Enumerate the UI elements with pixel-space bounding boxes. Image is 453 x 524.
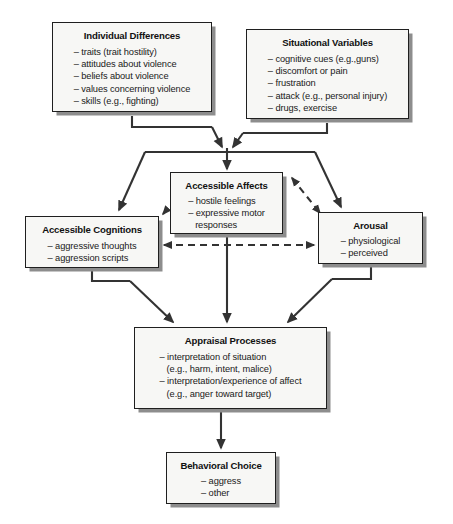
node-arousal-title: Arousal bbox=[327, 220, 414, 232]
list-item: – aggressive thoughts bbox=[48, 240, 137, 252]
node-individual-differences-title: Individual Differences bbox=[61, 30, 203, 42]
node-behavioral-choice: Behavioral Choice – aggress – other bbox=[166, 452, 276, 504]
connector-individual-differences-to-junction bbox=[132, 116, 222, 147]
list-item: – perceived bbox=[341, 247, 400, 259]
node-appraisal-processes: Appraisal Processes – interpretation of … bbox=[134, 327, 327, 409]
node-accessible-cognitions-list: – aggressive thoughts – aggression scrip… bbox=[48, 240, 137, 265]
list-item: – skills (e.g., fighting) bbox=[74, 95, 191, 107]
node-individual-differences-list: – traits (trait hostility) – attitudes a… bbox=[74, 46, 191, 108]
node-accessible-affects-list: – hostile feelings – expressive motor re… bbox=[188, 195, 265, 232]
list-item: – interpretation of situation (e.g., har… bbox=[160, 351, 302, 376]
node-behavioral-choice-title: Behavioral Choice bbox=[175, 460, 267, 472]
list-item: – other bbox=[201, 487, 241, 499]
connector-situational-variables-to-junction bbox=[233, 123, 327, 147]
list-item: – beliefs about violence bbox=[74, 70, 191, 82]
general-aggression-model-diagram: Individual Differences – traits (trait h… bbox=[0, 0, 453, 524]
list-item: – frustration bbox=[268, 77, 387, 89]
list-item: – cognitive cues (e.g.,guns) bbox=[268, 53, 387, 65]
connector-cognitions-to-appraisal bbox=[92, 271, 173, 322]
list-item: – aggress bbox=[201, 475, 241, 487]
node-situational-variables-title: Situational Variables bbox=[255, 37, 400, 49]
node-appraisal-processes-title: Appraisal Processes bbox=[143, 335, 318, 347]
node-accessible-affects: Accessible Affects – hostile feelings – … bbox=[170, 172, 283, 234]
connector-arousal-to-appraisal bbox=[288, 267, 371, 322]
list-item: – attitudes about violence bbox=[74, 58, 191, 70]
node-accessible-cognitions: Accessible Cognitions – aggressive thoug… bbox=[25, 216, 159, 268]
node-arousal-list: – physiological – perceived bbox=[341, 235, 400, 260]
node-situational-variables-list: – cognitive cues (e.g.,guns) – discomfor… bbox=[268, 53, 387, 115]
list-item: – aggression scripts bbox=[48, 252, 137, 264]
node-behavioral-choice-list: – aggress – other bbox=[201, 475, 241, 500]
list-item: – drugs, exercise bbox=[268, 102, 387, 114]
node-individual-differences: Individual Differences – traits (trait h… bbox=[52, 22, 212, 112]
list-item: – values concerning violence bbox=[74, 83, 191, 95]
list-item: – interpretation/experience of affect (e… bbox=[160, 375, 302, 400]
node-arousal: Arousal – physiological – perceived bbox=[318, 212, 423, 264]
list-item: – discomfort or pain bbox=[268, 65, 387, 77]
node-appraisal-processes-list: – interpretation of situation (e.g., har… bbox=[160, 351, 302, 400]
list-item: – attack (e.g., personal injury) bbox=[268, 90, 387, 102]
node-accessible-cognitions-title: Accessible Cognitions bbox=[34, 224, 150, 236]
list-item: – traits (trait hostility) bbox=[74, 46, 191, 58]
list-item: – hostile feelings bbox=[188, 195, 265, 207]
connector-affects-arousal-link bbox=[292, 178, 320, 213]
list-item: – expressive motor responses bbox=[188, 207, 265, 232]
node-situational-variables: Situational Variables – cognitive cues (… bbox=[246, 29, 409, 119]
list-item: – physiological bbox=[341, 235, 400, 247]
node-accessible-affects-title: Accessible Affects bbox=[179, 180, 274, 192]
